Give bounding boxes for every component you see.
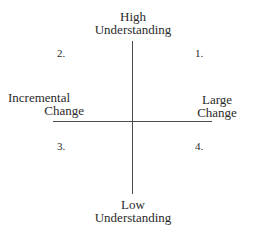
horizontal-axis-line <box>53 121 212 122</box>
bottom-axis-label-line2: Understanding <box>88 211 178 224</box>
quadrant-3-number: 3. <box>57 141 65 152</box>
right-axis-label-line2: Change <box>192 106 242 119</box>
top-axis-label-line2: Understanding <box>92 23 174 36</box>
bottom-axis-label: Low Understanding <box>88 198 178 224</box>
top-axis-label: High Understanding <box>92 10 174 36</box>
vertical-axis-line <box>132 41 133 194</box>
left-axis-label: Incremental Change <box>8 91 84 117</box>
quadrant-1-number: 1. <box>195 48 203 59</box>
quadrant-4-number: 4. <box>195 141 203 152</box>
quadrant-2-number: 2. <box>57 48 65 59</box>
right-axis-label: Large Change <box>192 93 242 119</box>
left-axis-label-line2: Change <box>8 104 84 117</box>
